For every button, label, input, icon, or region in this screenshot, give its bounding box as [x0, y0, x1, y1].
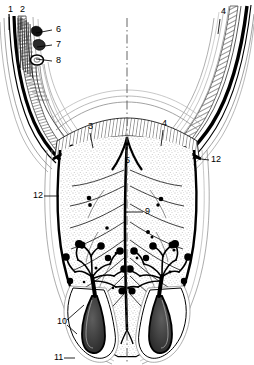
structure-8-lumen — [34, 58, 40, 62]
callout-label-7: 7 — [56, 39, 61, 49]
figure-canvas: 126784345121291011 — [0, 0, 254, 365]
callout-label-1: 1 — [8, 4, 13, 14]
callout-label-6: 6 — [56, 24, 61, 34]
callout-label-12r: 12 — [211, 154, 221, 164]
callout-label-11: 11 — [54, 352, 63, 362]
callout-label-10: 10 — [57, 316, 67, 326]
callout-label-4t: 4 — [221, 6, 226, 16]
callout-label-2: 2 — [20, 4, 25, 14]
callout-label-3: 3 — [88, 121, 93, 131]
callout-label-8: 8 — [56, 55, 61, 65]
anatomical-figure: 126784345121291011 — [0, 0, 254, 365]
callout-label-12l: 12 — [33, 190, 43, 200]
callout-label-9: 9 — [145, 206, 150, 216]
structure-7 — [33, 40, 45, 51]
structure-6 — [31, 26, 42, 36]
callout-label-4b: 4 — [162, 118, 167, 128]
callout-label-5: 5 — [125, 155, 130, 165]
